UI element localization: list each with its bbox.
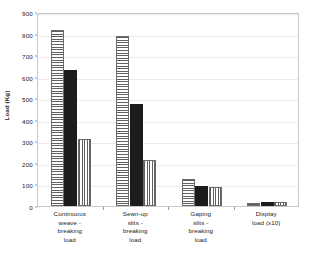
- x-axis-category-label: Continuous weave - breaking load: [37, 210, 103, 244]
- y-axis-tick-label: 0: [29, 204, 33, 211]
- x-axis-category-label: Display load (x10): [234, 210, 300, 227]
- plot-area: [37, 13, 299, 207]
- y-axis-tick-label: 400: [22, 117, 33, 124]
- x-axis-tick-mark: [103, 207, 104, 210]
- y-axis-tick-label: 600: [22, 74, 33, 81]
- bar: [247, 203, 260, 206]
- bar: [274, 202, 287, 206]
- y-axis-title-text: Load (Kg): [4, 90, 11, 120]
- bar: [182, 179, 195, 206]
- x-axis-tick-mark: [234, 207, 235, 210]
- x-axis-category-label: Sewn-up slits - breaking load: [103, 210, 169, 244]
- y-axis-tick-label: 200: [22, 160, 33, 167]
- x-axis-category-label: Gaping slits - breaking load: [168, 210, 234, 244]
- y-axis-tick-label: 300: [22, 139, 33, 146]
- x-axis-tick-mark: [168, 207, 169, 210]
- y-axis-title: Load (Kg): [0, 0, 14, 210]
- bar: [64, 70, 77, 206]
- bars-layer: [38, 14, 298, 206]
- x-axis-category-labels: Continuous weave - breaking loadSewn-up …: [37, 210, 299, 258]
- bar: [51, 30, 64, 206]
- bar-chart: Load (Kg) 0100200300400500600700800900 C…: [0, 0, 310, 259]
- y-axis-tick-label: 700: [22, 53, 33, 60]
- bar-group: [116, 14, 156, 206]
- bar: [261, 202, 274, 206]
- bar-group: [247, 14, 287, 206]
- y-axis-tick-labels: 0100200300400500600700800900: [13, 13, 35, 207]
- bar: [78, 139, 91, 206]
- bar: [116, 36, 129, 206]
- bar-group: [182, 14, 222, 206]
- y-axis-tick-label: 500: [22, 96, 33, 103]
- y-axis-tick-label: 900: [22, 10, 33, 17]
- bar: [130, 104, 143, 206]
- y-axis-tick-label: 100: [22, 182, 33, 189]
- bar: [209, 187, 222, 206]
- bar: [143, 160, 156, 206]
- y-axis-tick-label: 800: [22, 31, 33, 38]
- bar-group: [51, 14, 91, 206]
- bar: [195, 186, 208, 206]
